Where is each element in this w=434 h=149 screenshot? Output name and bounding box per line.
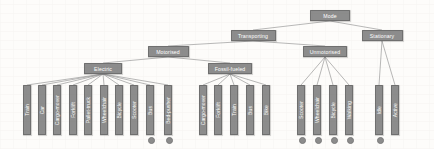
node-label: Unmotorised [310,49,341,55]
leaf-node-label: Bicycle [329,102,338,119]
leaf-node-label: Scooter [130,101,139,119]
leaf-node-label: Scooter [297,101,306,119]
leaf-node[interactable]: Cargo-mover [53,85,62,135]
leaf-node[interactable]: Bicycle [329,85,338,135]
leaf-node-label: Train [23,104,32,116]
node-transporting[interactable]: Transporting [231,30,276,41]
node-label: Stationary [370,33,394,39]
leaf-node-label: Bicycle [115,102,124,119]
leaf-node-label: Wheelchair [313,97,322,123]
node-mode[interactable]: Mode [310,10,350,21]
leaf-node[interactable]: Scooter [297,85,306,135]
leaf-node-label: Car [38,106,47,114]
leaf-marker-dot [315,137,322,144]
leaf-marker-dot [166,137,173,144]
node-motorised[interactable]: Motorised [148,46,189,57]
leaf-node[interactable]: Scooter [130,85,139,135]
leaf-node[interactable]: Bus [146,85,155,135]
leaf-node-label: Train [230,104,239,116]
leaf-node-label: Wheelchair [100,97,109,123]
node-label: Motorised [156,49,180,55]
leaf-marker-dot [299,137,306,144]
leaf-node-label: Forklift [69,102,78,118]
leaf-node[interactable]: Bed-pusher [164,85,173,135]
leaf-node[interactable]: Idle [375,85,384,135]
node-label: Transporting [238,33,268,39]
leaf-node[interactable]: Cargo-mover [199,85,208,135]
leaf-node-label: Cargo-mover [199,95,208,125]
node-unmotorised[interactable]: Unmotorised [303,46,347,57]
leaf-node[interactable]: Bus [246,85,255,135]
leaf-marker-dot [331,137,338,144]
leaf-node-label: Walking [345,101,354,119]
leaf-node-label: Bed-pusher [164,97,173,124]
node-electric[interactable]: Electric [84,63,122,74]
leaf-node[interactable]: Train [230,85,239,135]
leaf-node[interactable]: Pallet-truck [84,85,93,135]
node-label: Mode [323,13,336,19]
node-label: Electric [94,66,112,72]
leaf-node-label: Active [391,103,400,117]
mode-taxonomy-diagram: ModeTransportingStationaryMotorisedUnmot… [0,0,434,149]
leaf-node[interactable]: Forklift [69,85,78,135]
node-stationary[interactable]: Stationary [362,30,403,41]
leaf-node-label: Idle [375,106,384,114]
node-fossil-fueled[interactable]: Fossil-fueled [208,63,252,74]
leaf-node[interactable]: Active [391,85,400,135]
leaf-node-label: Bus [246,106,255,115]
leaf-node-label: Cargo-mover [53,95,62,125]
leaf-node-label: Bike [262,105,271,115]
leaf-node[interactable]: Wheelchair [100,85,109,135]
leaf-marker-dot [347,137,354,144]
leaf-node[interactable]: Walking [345,85,354,135]
leaf-node[interactable]: Car [38,85,47,135]
leaf-node[interactable]: Bike [262,85,271,135]
leaf-node[interactable]: Bicycle [115,85,124,135]
leaf-marker-dot [377,137,384,144]
leaf-node[interactable]: Forklift [214,85,223,135]
leaf-node[interactable]: Wheelchair [313,85,322,135]
leaf-node-label: Bus [146,106,155,115]
leaf-node-label: Forklift [214,102,223,118]
leaf-node-label: Pallet-truck [84,97,93,123]
leaf-node[interactable]: Train [23,85,32,135]
leaf-marker-dot [148,137,155,144]
node-label: Fossil-fueled [215,66,246,72]
